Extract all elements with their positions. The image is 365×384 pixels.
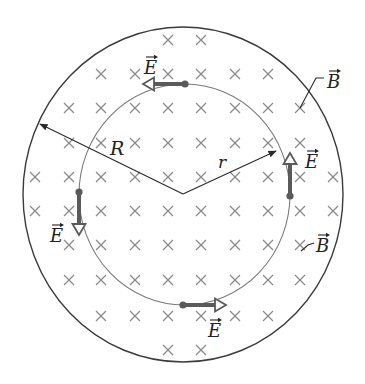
x-mark-icon <box>96 138 106 148</box>
electric-field-vectors: EEEE <box>49 55 319 341</box>
x-mark-icon <box>130 138 140 148</box>
leader-line <box>301 243 314 251</box>
point-dot-icon <box>181 80 188 87</box>
x-mark-icon <box>163 240 173 250</box>
x-mark-icon <box>263 311 273 321</box>
point-dot-icon <box>179 301 186 308</box>
x-mark-icon <box>196 103 206 113</box>
x-mark-icon <box>230 206 240 216</box>
x-mark-icon <box>196 138 206 148</box>
b-vector-label: B <box>315 233 330 256</box>
e-vector-right: E <box>284 149 320 200</box>
x-mark-icon <box>163 138 173 148</box>
x-mark-icon <box>230 138 240 148</box>
x-mark-icon <box>230 172 240 182</box>
x-mark-icon <box>64 275 74 285</box>
e-vector-label: E <box>49 223 64 246</box>
x-mark-icon <box>64 240 74 250</box>
x-mark-icon <box>96 172 106 182</box>
x-mark-icon <box>163 275 173 285</box>
x-mark-icon <box>295 138 305 148</box>
x-mark-icon <box>163 206 173 216</box>
x-mark-icon <box>295 206 305 216</box>
x-mark-icon <box>295 172 305 182</box>
x-mark-icon <box>130 103 140 113</box>
radius-R-arrow <box>40 124 183 194</box>
x-mark-icon <box>163 69 173 79</box>
x-mark-icon <box>163 311 173 321</box>
e-vector-left: E <box>49 188 86 246</box>
x-mark-icon <box>130 311 140 321</box>
x-mark-icon <box>263 240 273 250</box>
induced-electric-field-diagram: R r EEEE BB <box>0 0 365 384</box>
x-mark-icon <box>196 275 206 285</box>
arrowhead-icon <box>73 224 86 235</box>
svg-text:B: B <box>315 235 329 256</box>
x-mark-icon <box>230 69 240 79</box>
x-mark-icon <box>196 311 206 321</box>
x-mark-icon <box>328 206 338 216</box>
b-vector-label: B <box>326 69 341 92</box>
x-mark-icon <box>263 69 273 79</box>
x-mark-icon <box>263 172 273 182</box>
x-mark-icon <box>96 275 106 285</box>
e-vector-label: E <box>207 318 222 341</box>
x-mark-icon <box>130 206 140 216</box>
x-mark-icon <box>96 206 106 216</box>
radius-R-label: R <box>109 137 124 159</box>
x-mark-icon <box>96 103 106 113</box>
x-mark-icon <box>196 206 206 216</box>
x-mark-icon <box>64 206 74 216</box>
arrowhead-icon <box>284 153 297 164</box>
svg-text:E: E <box>143 57 157 78</box>
circular-path-radius-r <box>79 84 290 305</box>
point-dot-icon <box>75 188 82 195</box>
arrowhead-icon <box>215 299 226 312</box>
x-mark-icon <box>196 172 206 182</box>
x-mark-icon <box>30 206 40 216</box>
point-dot-icon <box>286 192 293 199</box>
x-mark-icon <box>163 103 173 113</box>
x-mark-icon <box>64 103 74 113</box>
x-mark-icon <box>263 275 273 285</box>
x-mark-icon <box>163 172 173 182</box>
x-mark-icon <box>30 172 40 182</box>
x-mark-icon <box>295 275 305 285</box>
x-mark-icon <box>196 35 206 45</box>
e-vector-label: E <box>143 55 158 78</box>
x-mark-icon <box>230 103 240 113</box>
x-mark-icon <box>130 275 140 285</box>
x-mark-icon <box>96 69 106 79</box>
x-mark-icon <box>130 69 140 79</box>
x-mark-icon <box>163 35 173 45</box>
svg-text:B: B <box>326 71 340 92</box>
b-label-bottom: B <box>301 233 330 256</box>
x-mark-icon <box>230 311 240 321</box>
svg-text:E: E <box>49 225 63 246</box>
x-mark-icon <box>263 138 273 148</box>
x-mark-icon <box>263 103 273 113</box>
x-mark-icon <box>196 69 206 79</box>
e-vector-bottom: E <box>179 299 226 342</box>
x-mark-icon <box>230 240 240 250</box>
x-mark-icon <box>96 311 106 321</box>
x-mark-icon <box>96 240 106 250</box>
x-mark-icon <box>196 240 206 250</box>
e-vector-label: E <box>304 149 319 172</box>
radius-r-label: r <box>218 152 227 172</box>
x-mark-icon <box>64 172 74 182</box>
arrowhead-icon <box>143 78 154 91</box>
x-mark-icon <box>130 240 140 250</box>
x-mark-icon <box>163 345 173 355</box>
x-mark-icon <box>130 172 140 182</box>
field-region-boundary <box>23 27 343 362</box>
x-mark-icon <box>230 275 240 285</box>
x-mark-icon <box>263 206 273 216</box>
x-mark-icon <box>196 345 206 355</box>
svg-text:E: E <box>304 151 318 172</box>
x-mark-icon <box>328 172 338 182</box>
svg-text:E: E <box>207 320 221 341</box>
